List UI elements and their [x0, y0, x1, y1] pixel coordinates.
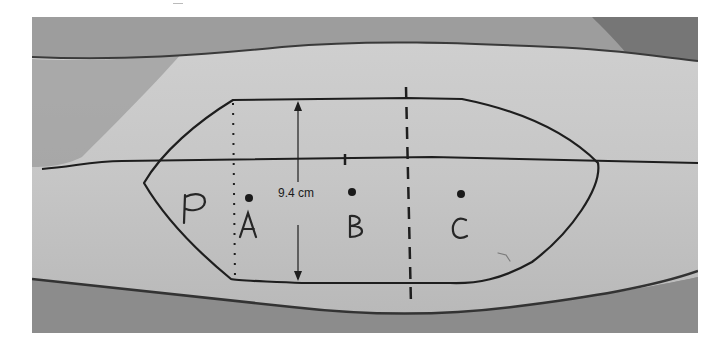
- measurement-label: 9.4 cm: [278, 186, 314, 200]
- flap-drawing: [32, 17, 698, 333]
- point-a-dot: [245, 194, 253, 202]
- point-c-dot: [457, 190, 465, 198]
- clinical-photo: 9.4 cm: [32, 17, 698, 333]
- top-artifact-mark: [173, 3, 183, 4]
- point-b-dot: [348, 188, 356, 196]
